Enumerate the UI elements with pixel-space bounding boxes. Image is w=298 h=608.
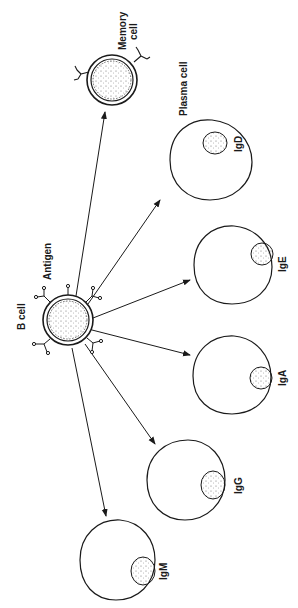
arrow-to-iga [92, 330, 190, 355]
igm-label: IgM [158, 563, 169, 580]
memory-cell-label-line2: cell [128, 23, 139, 40]
plasma-cell-iga [193, 336, 272, 414]
iga-label: IgA [277, 370, 288, 386]
arrow-to-memory-cell [76, 112, 105, 296]
plasma-cell-header: Plasma cell [178, 61, 189, 116]
arrow-to-ige [93, 280, 190, 318]
plasma-cell-igm [80, 520, 155, 600]
arrow-to-igm [72, 348, 106, 516]
ige-label: IgE [277, 256, 288, 272]
plasma-cell-ige [194, 226, 273, 304]
memory-cell-label-line1: Memory [117, 11, 128, 50]
diagram-canvas: Memory cell Plasma cell B cell Antigen I… [0, 0, 298, 608]
plasma-cell-igg [147, 440, 225, 520]
igd-label: IgD [233, 136, 244, 152]
antigen-label: Antigen [42, 243, 53, 280]
arrow-to-igg [85, 344, 155, 444]
b-cell [32, 284, 102, 354]
arrow-to-igd [88, 200, 160, 304]
plasma-cell-igd [170, 120, 252, 200]
b-cell-label: B cell [16, 303, 27, 330]
memory-cell [74, 47, 150, 105]
igg-label: IgG [233, 477, 244, 494]
